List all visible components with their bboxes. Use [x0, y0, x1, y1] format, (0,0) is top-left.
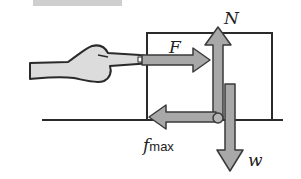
contact-point	[213, 113, 223, 123]
friction-label: fmax	[143, 135, 174, 155]
friction-arrow	[149, 105, 216, 129]
force-diagram: F N fmax w	[0, 0, 301, 179]
normal-force-label: N	[224, 8, 239, 28]
weight-label: w	[248, 150, 263, 170]
friction-subscript: max	[149, 139, 174, 154]
applied-force-label: F	[169, 37, 181, 57]
hand-icon	[30, 45, 146, 82]
top-gray-bar	[33, 0, 122, 6]
